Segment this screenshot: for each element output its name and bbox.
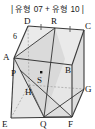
vertex-label-G: G: [85, 84, 92, 94]
vertex-label-C: C: [85, 21, 91, 31]
vertex-label-F: F: [68, 119, 73, 129]
measure-label-6: 6: [13, 32, 17, 41]
page-title: | 유형 07 + 유형 10 |: [0, 5, 95, 15]
vertex-label-D: D: [24, 18, 31, 26]
vertex-label-H: H: [25, 87, 32, 97]
point-label-Q: Q: [40, 119, 47, 129]
point-label-S: S: [37, 75, 42, 85]
figure-page: | 유형 07 + 유형 10 |: [0, 0, 95, 129]
point-label-P: P: [11, 68, 16, 78]
vertex-label-B: B: [65, 65, 71, 75]
cube-svg: A B C D E F G H P Q R S 6: [0, 18, 95, 129]
point-label-R: R: [51, 18, 57, 26]
point-marker-S: [40, 71, 42, 73]
cube-diagram: A B C D E F G H P Q R S 6: [0, 18, 95, 129]
vertex-label-A: A: [3, 52, 10, 62]
vertex-label-E: E: [2, 119, 8, 129]
